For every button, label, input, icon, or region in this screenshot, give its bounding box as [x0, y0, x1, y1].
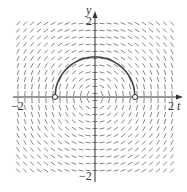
y-axis-arrow-icon [93, 11, 98, 18]
open-endpoint-left [53, 95, 58, 100]
y-min-label: −2 [79, 169, 92, 183]
x-max-label: 2 [168, 99, 174, 113]
plot-area: y 2 −2 −2 2 t [0, 0, 187, 192]
x-min-label: −2 [11, 99, 24, 113]
slope-field-chart: y 2 −2 −2 2 t [0, 0, 187, 192]
y-max-label: 2 [86, 14, 92, 28]
open-endpoint-right [133, 95, 138, 100]
x-axis-label: t [177, 99, 181, 113]
